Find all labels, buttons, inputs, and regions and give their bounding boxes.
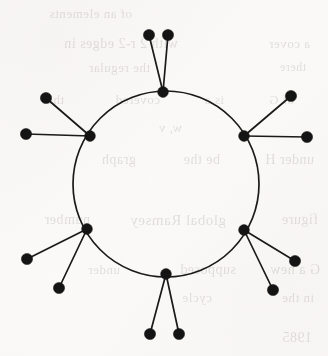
vertex-pendant-top-right bbox=[162, 29, 173, 40]
vertex-pendant-lower-right-down bbox=[267, 284, 278, 295]
vertex-pendant-lower-right-side bbox=[289, 255, 300, 266]
vertex-layer bbox=[20, 29, 312, 339]
vertex-pendant-upper-left-side bbox=[20, 128, 31, 139]
vertex-pendant-bottom-right bbox=[173, 328, 184, 339]
pendant-edge-pendant-lower-left-down bbox=[59, 229, 87, 288]
pendant-edge-pendant-upper-left-side bbox=[26, 134, 90, 136]
pendant-edge-pendant-bottom-left bbox=[150, 274, 166, 334]
cycle-ring-layer bbox=[73, 91, 259, 277]
vertex-pendant-bottom-left bbox=[144, 328, 155, 339]
pendant-edge-pendant-upper-left-up bbox=[46, 98, 90, 136]
vertex-hub-top bbox=[158, 87, 169, 98]
pendant-edge-pendant-bottom-right bbox=[166, 274, 179, 334]
pendant-edge-pendant-top-left bbox=[149, 35, 163, 92]
vertex-hub-bottom bbox=[161, 269, 172, 280]
vertex-pendant-lower-left-side bbox=[21, 253, 32, 264]
vertex-pendant-upper-right-up bbox=[285, 90, 296, 101]
figure-page: of an elementswith 2 r-2 edges inthe reg… bbox=[0, 0, 328, 356]
edge-layer bbox=[26, 35, 307, 334]
vertex-pendant-upper-left-up bbox=[40, 92, 51, 103]
vertex-hub-lower-right bbox=[239, 225, 250, 236]
pendant-edge-pendant-lower-left-side bbox=[27, 229, 87, 259]
vertex-hub-lower-left bbox=[82, 224, 93, 235]
vertex-pendant-top-left bbox=[143, 29, 154, 40]
pendant-edge-pendant-top-right bbox=[163, 35, 168, 92]
pendant-edge-pendant-upper-right-up bbox=[244, 96, 291, 136]
vertex-pendant-lower-left-down bbox=[53, 282, 64, 293]
pendant-edge-pendant-upper-right-side bbox=[244, 136, 307, 137]
cycle-edge-ring bbox=[73, 91, 259, 277]
vertex-pendant-upper-right-side bbox=[301, 131, 312, 142]
graph-diagram bbox=[0, 0, 328, 356]
vertex-hub-upper-right bbox=[239, 131, 250, 142]
vertex-hub-upper-left bbox=[85, 131, 96, 142]
